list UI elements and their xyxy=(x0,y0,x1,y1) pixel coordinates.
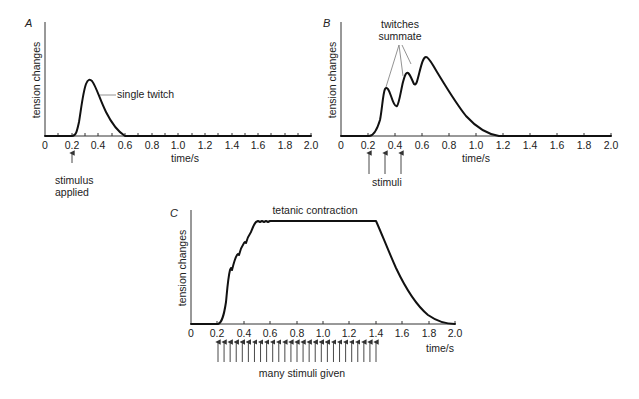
svg-text:0.8: 0.8 xyxy=(442,139,457,151)
svg-text:1.2: 1.2 xyxy=(198,139,213,151)
svg-text:0: 0 xyxy=(188,327,194,339)
svg-text:1.4: 1.4 xyxy=(523,139,538,151)
svg-text:0.2: 0.2 xyxy=(65,139,80,151)
svg-text:2.0: 2.0 xyxy=(448,327,463,339)
summate-leader-1 xyxy=(386,45,399,87)
twitches-label: twitches xyxy=(381,18,419,30)
svg-text:1.8: 1.8 xyxy=(422,327,437,339)
x-tick-labels: 0 0.2 0.4 0.6 0.8 1.0 1.2 1.4 1.6 1.8 2.… xyxy=(338,139,618,151)
svg-text:1.0: 1.0 xyxy=(469,139,484,151)
panel-a: A tension changes 0 0.2 0.4 0.6 0.8 1.0 … xyxy=(24,17,318,198)
panel-b-label: B xyxy=(323,17,330,29)
panel-b: B tension changes 0 0.2 0.4 0.6 0.8 1.0 … xyxy=(323,17,618,188)
svg-text:1.4: 1.4 xyxy=(369,327,384,339)
summate-leader-2 xyxy=(399,45,403,76)
svg-text:0: 0 xyxy=(42,139,48,151)
svg-text:1.2: 1.2 xyxy=(342,327,357,339)
svg-text:0.8: 0.8 xyxy=(290,327,305,339)
stimulus-label: stimulus xyxy=(55,174,94,186)
x-tick-labels: 0 0.2 0.4 0.6 0.8 1.0 1.2 1.4 1.6 1.8 2.… xyxy=(188,327,462,339)
x-axis-label: time/s xyxy=(426,342,454,354)
svg-text:1.0: 1.0 xyxy=(316,327,331,339)
summate-leader-3 xyxy=(402,45,411,64)
svg-text:0.4: 0.4 xyxy=(91,139,106,151)
svg-text:2.0: 2.0 xyxy=(304,139,319,151)
svg-text:0.6: 0.6 xyxy=(118,139,133,151)
svg-text:0.4: 0.4 xyxy=(237,327,252,339)
svg-text:0.6: 0.6 xyxy=(263,327,278,339)
svg-text:2.0: 2.0 xyxy=(604,139,619,151)
svg-text:1.0: 1.0 xyxy=(171,139,186,151)
x-axis-label: time/s xyxy=(462,152,490,164)
stimuli-arrows xyxy=(218,342,376,362)
stimuli-label: stimuli xyxy=(372,176,402,188)
svg-text:1.4: 1.4 xyxy=(225,139,240,151)
tetanic-contraction-curve xyxy=(191,221,455,324)
y-axis-label: tension changes xyxy=(326,42,338,118)
single-twitch-label: single twitch xyxy=(117,88,174,100)
svg-text:0.2: 0.2 xyxy=(361,139,376,151)
applied-label: applied xyxy=(55,186,89,198)
summate-label: summate xyxy=(378,30,421,42)
figure: A tension changes 0 0.2 0.4 0.6 0.8 1.0 … xyxy=(0,0,639,399)
svg-text:0.4: 0.4 xyxy=(388,139,403,151)
svg-text:0.2: 0.2 xyxy=(210,327,225,339)
svg-text:0.6: 0.6 xyxy=(415,139,430,151)
svg-text:0: 0 xyxy=(338,139,344,151)
panel-c: C tension changes 0 0.2 0.4 0.6 0.8 1.0 … xyxy=(170,204,462,379)
svg-text:1.6: 1.6 xyxy=(550,139,565,151)
panel-c-label: C xyxy=(170,207,178,219)
x-axis-label: time/s xyxy=(171,152,199,164)
panel-a-label: A xyxy=(24,17,32,29)
svg-text:1.8: 1.8 xyxy=(278,139,293,151)
svg-text:1.6: 1.6 xyxy=(251,139,266,151)
single-twitch-curve xyxy=(45,80,311,136)
summated-twitch-curve xyxy=(341,57,611,136)
svg-text:1.8: 1.8 xyxy=(577,139,592,151)
tetanic-contraction-label: tetanic contraction xyxy=(272,204,357,216)
y-axis-label: tension changes xyxy=(30,42,42,118)
svg-text:1.6: 1.6 xyxy=(395,327,410,339)
y-axis-label: tension changes xyxy=(176,230,188,306)
x-tick-labels: 0 0.2 0.4 0.6 0.8 1.0 1.2 1.4 1.6 1.8 2.… xyxy=(42,139,318,151)
many-stimuli-label: many stimuli given xyxy=(259,367,346,379)
svg-text:0.8: 0.8 xyxy=(145,139,160,151)
svg-text:1.2: 1.2 xyxy=(496,139,511,151)
